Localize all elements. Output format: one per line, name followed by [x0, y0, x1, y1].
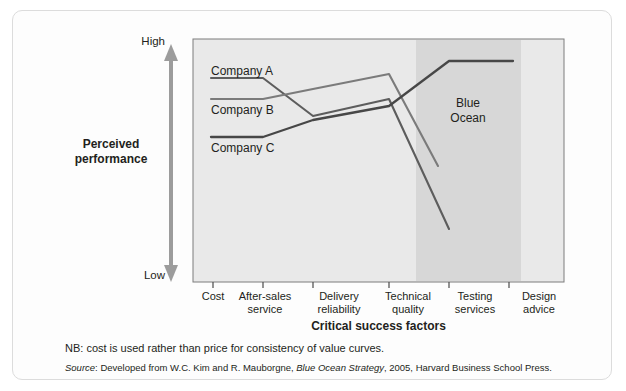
x-category-technical-quality: Technical quality	[374, 290, 442, 316]
x-category-delivery-reliability: Delivery reliability	[303, 290, 375, 316]
x-category-after-sales-service-line2: service	[229, 303, 301, 316]
y-axis-title-line1: Perceived	[61, 137, 161, 152]
y-axis-arrow	[164, 44, 178, 282]
y-axis-low-label: Low	[121, 269, 165, 281]
x-category-design-advice: Design advice	[509, 290, 569, 316]
source-italic-title: Blue Ocean Strategy	[296, 362, 384, 373]
x-category-delivery-reliability-line2: reliability	[303, 303, 375, 316]
x-category-testing-services-line1: Testing	[441, 290, 509, 303]
x-axis-ticks	[213, 282, 509, 288]
x-category-design-advice-line1: Design	[509, 290, 569, 303]
x-category-delivery-reliability-line1: Delivery	[303, 290, 375, 303]
blue-ocean-line2: Ocean	[428, 111, 508, 126]
x-category-after-sales-service-line1: After-sales	[229, 290, 301, 303]
x-category-technical-quality-line1: Technical	[374, 290, 442, 303]
series-label-company-a: Company A	[211, 64, 273, 78]
series-label-company-c: Company C	[211, 141, 274, 155]
blue-ocean-annotation: Blue Ocean	[428, 96, 508, 126]
x-category-testing-services-line2: services	[441, 303, 509, 316]
y-axis-title-line2: performance	[61, 152, 161, 167]
x-axis-title: Critical success factors	[193, 319, 564, 333]
x-category-testing-services: Testing services	[441, 290, 509, 316]
source-rest: : Developed from W.C. Kim and R. Mauborg…	[95, 362, 296, 373]
source-prefix: Source	[65, 362, 95, 373]
chart-note: NB: cost is used rather than price for c…	[65, 342, 384, 354]
x-category-technical-quality-line2: quality	[374, 303, 442, 316]
value-curve-chart: High Low Perceived performance Company A…	[13, 11, 613, 381]
figure-card: High Low Perceived performance Company A…	[12, 10, 612, 380]
y-axis-high-label: High	[121, 35, 165, 47]
y-axis-title: Perceived performance	[61, 137, 161, 167]
blue-ocean-band	[416, 40, 521, 281]
source-tail: , 2005, Harvard Business School Press.	[384, 362, 552, 373]
x-category-design-advice-line2: advice	[509, 303, 569, 316]
chart-source: Source: Developed from W.C. Kim and R. M…	[65, 362, 552, 373]
series-label-company-b: Company B	[211, 103, 274, 117]
x-category-after-sales-service: After-sales service	[229, 290, 301, 316]
blue-ocean-line1: Blue	[428, 96, 508, 111]
